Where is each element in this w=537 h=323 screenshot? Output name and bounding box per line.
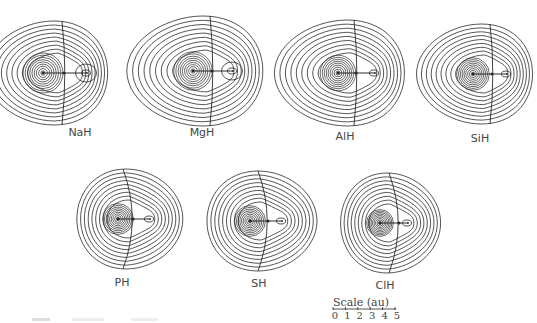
scale-tick-3: 3	[369, 310, 375, 321]
contour-plot-sh	[207, 171, 317, 271]
label-mgh: MgH	[190, 126, 215, 139]
contour-plot-clh	[341, 173, 441, 273]
contour-plot-ph	[77, 169, 183, 269]
contour-figure	[0, 0, 537, 323]
label-ph: PH	[115, 276, 130, 289]
scale-tick-2: 2	[357, 310, 363, 321]
scale-tick-5: 5	[394, 310, 400, 321]
contour-plot-nah	[0, 21, 108, 125]
scale-tick-0: 0	[332, 310, 338, 321]
contour-plot-sih	[417, 24, 533, 124]
label-sih: SiH	[471, 132, 489, 145]
contour-plot-alh	[274, 20, 404, 126]
scale-tick-1: 1	[344, 310, 350, 321]
scale-tick-4: 4	[381, 310, 387, 321]
scale-title: Scale (au)	[333, 296, 389, 309]
label-nah: NaH	[68, 126, 91, 139]
label-sh: SH	[251, 277, 266, 290]
contour-plot-mgh	[127, 16, 263, 126]
label-alh: AlH	[336, 130, 355, 143]
label-clh: ClH	[375, 279, 394, 292]
caption-fragment	[32, 318, 212, 321]
